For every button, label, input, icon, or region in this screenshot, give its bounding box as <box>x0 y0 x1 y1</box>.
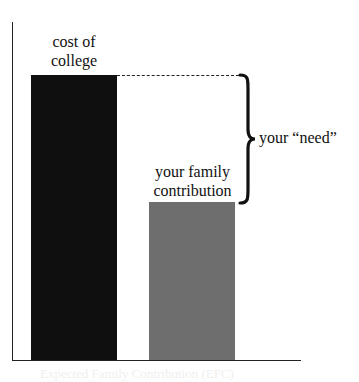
curly-brace-icon <box>236 73 258 205</box>
ghost-footer-text: Expected Family Contribution (EFC) <box>40 366 340 382</box>
label-line: college <box>31 51 117 70</box>
label-line: contribution <box>140 181 245 200</box>
label-line: cost of <box>31 32 117 51</box>
y-axis <box>12 22 13 361</box>
label-cost-of-college: cost of college <box>31 32 117 70</box>
x-axis <box>12 360 301 361</box>
label-line: your family <box>140 162 245 181</box>
bar-cost-of-college <box>31 75 117 360</box>
label-family-contribution: your family contribution <box>140 162 245 200</box>
label-need: your “need” <box>259 128 337 147</box>
dashed-reference-line <box>117 75 239 76</box>
bar-family-contribution <box>149 202 235 360</box>
